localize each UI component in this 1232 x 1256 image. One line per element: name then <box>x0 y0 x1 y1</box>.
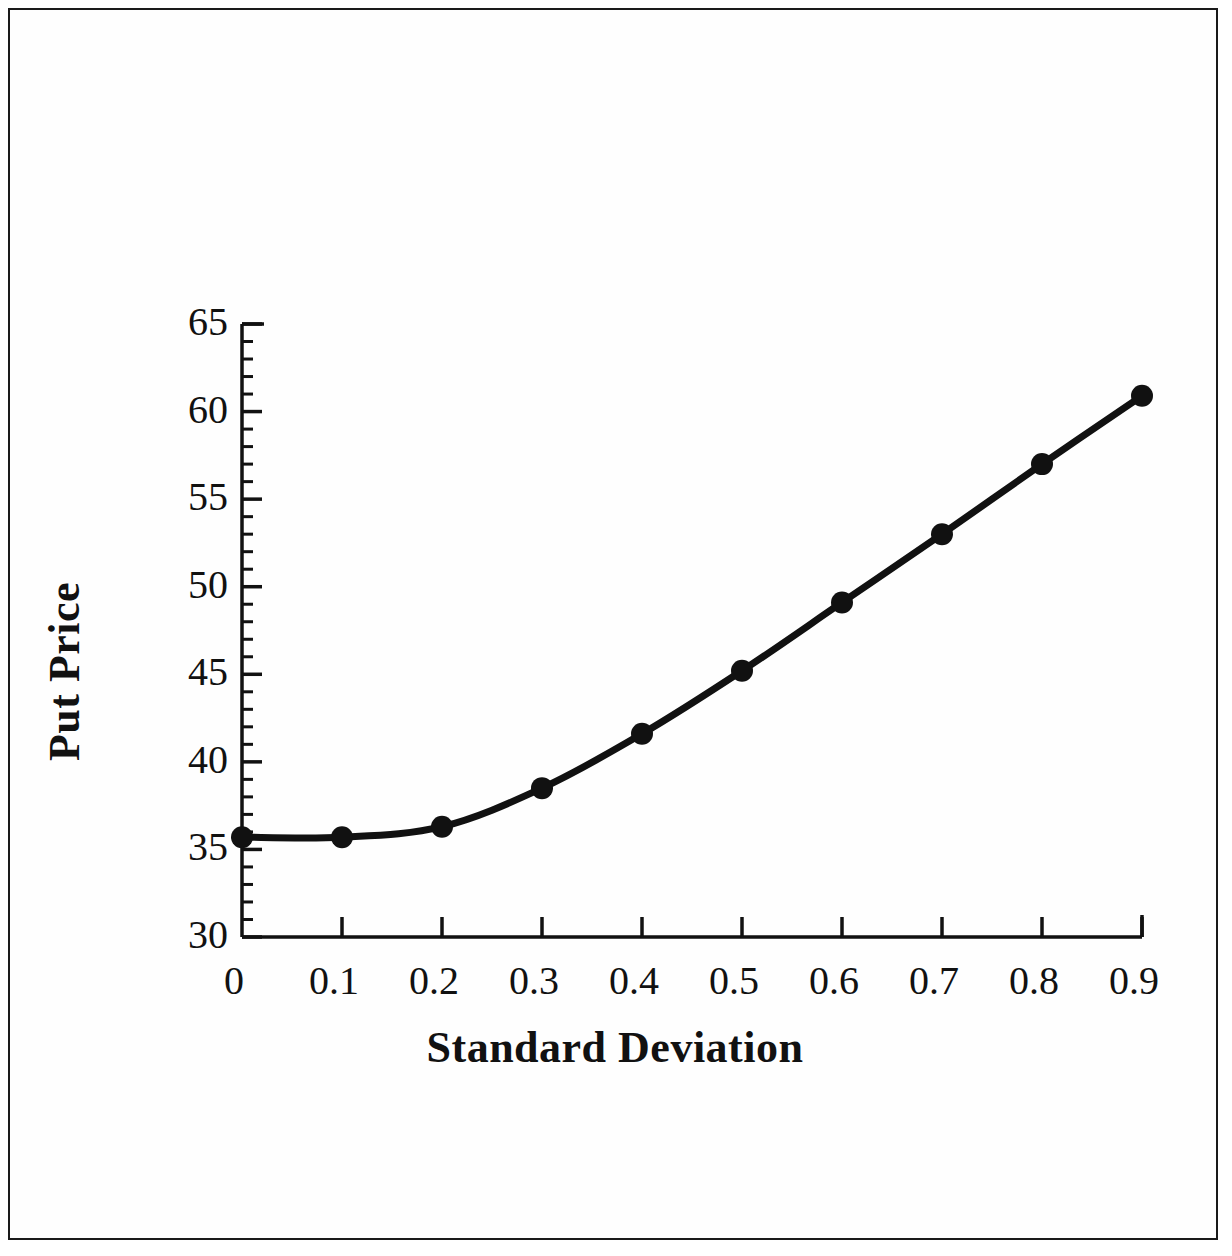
axis-lines <box>242 324 1142 937</box>
series-line <box>242 396 1142 838</box>
data-point <box>831 591 853 613</box>
y-axis-tick-label: 30 <box>138 911 228 958</box>
x-axis-tick-label: 0.2 <box>389 957 479 1004</box>
y-axis-title: Put Price <box>39 522 90 822</box>
y-axis-tick-label: 45 <box>138 648 228 695</box>
figure-frame: 3035404550556065 00.10.20.30.40.50.60.70… <box>8 8 1218 1240</box>
y-axis-tick-label: 40 <box>138 736 228 783</box>
x-axis-tick-label: 0 <box>189 957 279 1004</box>
y-axis-tick-label: 60 <box>138 386 228 433</box>
x-axis-title: Standard Deviation <box>10 1022 1220 1073</box>
data-point <box>1131 385 1153 407</box>
y-axis-tick-label: 35 <box>138 823 228 870</box>
x-axis-tick-label: 0.6 <box>789 957 879 1004</box>
x-axis-tick-label: 0.5 <box>689 957 779 1004</box>
x-axis-tick-label: 0.1 <box>289 957 379 1004</box>
x-axis-tick-label: 0.7 <box>889 957 979 1004</box>
data-point <box>631 723 653 745</box>
x-axis-tick-label: 0.8 <box>989 957 1079 1004</box>
series-markers <box>231 385 1153 848</box>
data-point <box>731 660 753 682</box>
data-point <box>1031 453 1053 475</box>
x-axis-tick-label: 0.4 <box>589 957 679 1004</box>
data-point <box>931 523 953 545</box>
data-point <box>231 826 253 848</box>
data-point <box>531 777 553 799</box>
x-axis-tick-label: 0.9 <box>1089 957 1179 1004</box>
data-point <box>431 816 453 838</box>
y-axis-tick-label: 55 <box>138 473 228 520</box>
data-point <box>331 826 353 848</box>
y-axis-tick-label: 50 <box>138 561 228 608</box>
x-axis-tick-label: 0.3 <box>489 957 579 1004</box>
x-axis-major-ticks <box>342 917 1142 937</box>
y-axis-tick-label: 65 <box>138 298 228 345</box>
